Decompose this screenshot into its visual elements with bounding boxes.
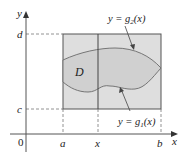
region-label: D [74, 65, 84, 79]
x-axis-label: x [171, 135, 177, 147]
origin-label: 0 [18, 136, 24, 148]
y-axis-label: y [16, 7, 22, 19]
y-tick-c: c [17, 103, 22, 115]
upper-curve-label: y = g2(x) [107, 13, 146, 26]
x-tick-x: x [94, 137, 100, 149]
y-tick-d: d [17, 28, 23, 40]
type-ii-region-diagram: y x 0 d c a x b D y = g2(x) y = g1(x) [0, 0, 190, 160]
x-tick-b: b [157, 137, 163, 149]
y-axis-arrow-icon [23, 11, 29, 18]
x-tick-a: a [60, 137, 66, 149]
lower-curve-label: y = g1(x) [117, 116, 156, 129]
